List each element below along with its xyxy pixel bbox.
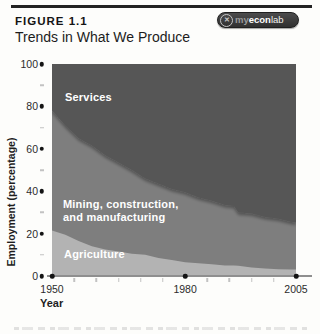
x-axis-title: Year	[40, 297, 63, 309]
x-tick-label: 1980	[168, 283, 202, 295]
x-tick-label: 2005	[279, 283, 313, 295]
x-minor-tick	[162, 278, 164, 282]
x-axis-line	[47, 275, 312, 277]
figure-title: Trends in What We Produce	[15, 29, 190, 45]
series-label-mining-line1: Mining, construction,	[63, 198, 178, 211]
x-minor-tick	[73, 278, 75, 282]
y-tick-dot	[39, 274, 44, 279]
figure-label: FIGURE 1.1	[15, 15, 88, 27]
series-label-mining-line2: and manufacturing	[63, 211, 178, 224]
series-label-mining: Mining, construction, and manufacturing	[63, 198, 178, 223]
y-tick-label: 20	[8, 228, 38, 240]
y-tick-label: 100	[8, 58, 38, 70]
y-tick-dot	[39, 189, 44, 194]
series-label-services: Services	[65, 91, 112, 104]
x-tick-dot	[294, 274, 299, 279]
x-minor-tick	[96, 278, 98, 282]
series-label-agriculture: Agriculture	[64, 248, 125, 261]
x-minor-tick	[140, 278, 142, 282]
y-tick-label: 60	[8, 143, 38, 155]
x-minor-tick	[118, 278, 120, 282]
y-tick-label: 80	[8, 100, 38, 112]
y-minor-tick	[40, 169, 44, 171]
x-tick-label: 1950	[35, 283, 69, 295]
cropped-caption-fragment	[14, 327, 308, 330]
y-tick-label: 40	[8, 185, 38, 197]
x-minor-tick	[273, 278, 275, 282]
x-minor-tick	[229, 278, 231, 282]
y-tick-label: 0	[8, 270, 38, 282]
top-rule	[11, 5, 312, 8]
x-minor-tick	[251, 278, 253, 282]
x-tick-dot	[50, 274, 55, 279]
y-minor-tick	[40, 127, 44, 129]
badge-text-my: my	[235, 15, 249, 25]
y-tick-dot	[39, 104, 44, 109]
y-tick-dot	[39, 62, 44, 67]
myeconlab-badge[interactable]: ✕ myeconlab	[217, 12, 299, 28]
y-minor-tick	[40, 254, 44, 256]
y-tick-dot	[39, 231, 44, 236]
figure-card: FIGURE 1.1 Trends in What We Produce ✕ m…	[0, 0, 320, 334]
x-minor-tick	[207, 278, 209, 282]
y-minor-tick	[40, 84, 44, 86]
x-tick-dot	[183, 274, 188, 279]
y-minor-tick	[40, 212, 44, 214]
badge-text-lab: lab	[271, 15, 284, 25]
badge-text-econ: econ	[249, 15, 271, 25]
y-tick-dot	[39, 147, 44, 152]
myeconlab-logo-icon: ✕	[220, 14, 233, 27]
